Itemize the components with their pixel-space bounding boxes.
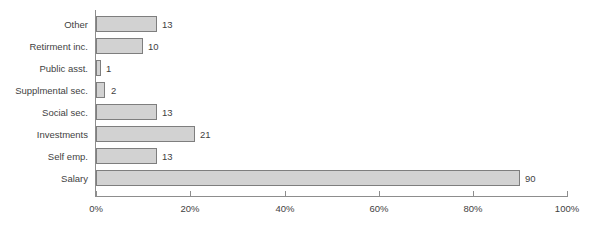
bar-value-label: 1 (106, 63, 111, 74)
x-tick-label: 20% (180, 203, 199, 214)
bar-value-label: 13 (162, 19, 173, 30)
bar-row: Investments 21 (0, 126, 606, 142)
bar-1 (96, 38, 143, 54)
x-tick-label: 100% (555, 203, 579, 214)
bar-row: Social sec. 13 (0, 104, 606, 120)
x-tick-mark (379, 191, 380, 197)
bar-chart: Other 13 Retirment inc. 10 Public asst. … (0, 0, 606, 228)
bar-row: Self emp. 13 (0, 148, 606, 164)
x-tick-label: 80% (463, 203, 482, 214)
x-tick-label: 40% (275, 203, 294, 214)
bar-value-label: 13 (162, 107, 173, 118)
bar-row: Other 13 (0, 16, 606, 32)
x-tick-label: 0% (89, 203, 103, 214)
bar-row: Public asst. 1 (0, 60, 606, 76)
bar-value-label: 13 (162, 151, 173, 162)
bar-4 (96, 104, 157, 120)
category-label: Public asst. (39, 63, 88, 74)
bar-value-label: 10 (148, 41, 159, 52)
bar-value-label: 90 (525, 173, 536, 184)
bar-5 (96, 126, 195, 142)
bar-0 (96, 16, 157, 32)
bar-value-label: 21 (200, 129, 211, 140)
x-tick-mark (190, 191, 191, 197)
category-label: Self emp. (48, 151, 88, 162)
x-tick-label: 60% (369, 203, 388, 214)
category-label: Supplmental sec. (15, 85, 88, 96)
category-label: Retirment inc. (29, 41, 88, 52)
category-label: Other (64, 19, 88, 30)
x-tick-mark (96, 191, 97, 197)
bar-2 (96, 60, 101, 76)
plot-area: Other 13 Retirment inc. 10 Public asst. … (0, 0, 606, 228)
bar-value-label: 2 (111, 85, 116, 96)
x-tick-mark (567, 191, 568, 197)
x-tick-mark (285, 191, 286, 197)
bar-row: Retirment inc. 10 (0, 38, 606, 54)
bar-row: Salary 90 (0, 170, 606, 186)
category-label: Salary (61, 173, 88, 184)
category-label: Investments (37, 129, 88, 140)
bar-row: Supplmental sec. 2 (0, 82, 606, 98)
x-tick-mark (473, 191, 474, 197)
bar-3 (96, 82, 105, 98)
bar-6 (96, 148, 157, 164)
bar-7 (96, 170, 520, 186)
x-axis-line (95, 196, 568, 197)
category-label: Social sec. (42, 107, 88, 118)
